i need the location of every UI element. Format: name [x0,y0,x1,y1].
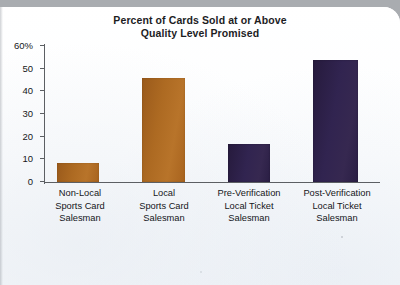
chart-title: Percent of Cards Sold at or Above Qualit… [40,14,360,40]
x-label-pre-verification-local-ticket-salesman: Pre-Verification Local Ticket Salesman [201,187,297,225]
y-tick-50: 50 [40,68,44,69]
bar-pre-verification-local-ticket-salesman [228,144,270,182]
y-tick-0: 0 [40,181,44,182]
scan-speck [200,271,202,273]
y-tick-label-40: 40 [22,85,33,96]
x-axis-labels: Non-Local Sports Card Salesman Local Spo… [44,187,380,231]
x-label-post-verification-local-ticket-salesman: Post-Verification Local Ticket Salesman [287,187,387,225]
x-label-non-local-sports-card-salesman: Non-Local Sports Card Salesman [35,187,125,225]
bar-post-verification-local-ticket-salesman [313,60,358,182]
y-tick-label-50: 50 [22,62,33,73]
y-tick-label-60: 60% [14,40,33,51]
x-label-local-sports-card-salesman: Local Sports Card Salesman [121,187,207,225]
bar-local-sports-card-salesman [142,78,185,182]
y-axis-line [44,44,45,184]
y-tick-label-30: 30 [22,108,33,119]
bar-non-local-sports-card-salesman [57,163,99,182]
y-tick-30: 30 [40,113,44,114]
y-tick-60: 60% [40,45,44,46]
bar-chart: Percent of Cards Sold at or Above Qualit… [0,7,400,285]
y-tick-20: 20 [40,136,44,137]
y-tick-label-10: 10 [22,153,33,164]
y-tick-label-0: 0 [28,176,33,187]
y-tick-label-20: 20 [22,130,33,141]
chart-title-line-1: Percent of Cards Sold at or Above [40,14,360,27]
y-tick-40: 40 [40,90,44,91]
scanned-chart-page: Percent of Cards Sold at or Above Qualit… [0,0,400,285]
x-axis-line [44,182,380,183]
plot-area: 0 10 20 30 40 50 60% [44,46,380,182]
y-tick-10: 10 [40,158,44,159]
chart-title-line-2: Quality Level Promised [40,27,360,40]
scan-speck [341,236,343,238]
